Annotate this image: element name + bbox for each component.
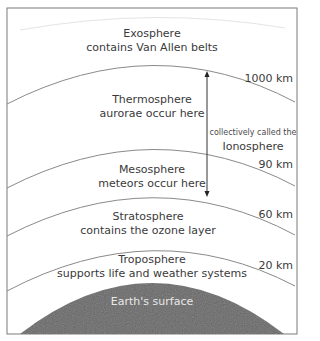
- ionosphere-name: Ionosphere: [222, 140, 283, 153]
- layer-name: Mesosphere: [98, 163, 206, 177]
- altitude-1000km: 1000 km: [244, 72, 293, 85]
- layer-exosphere: Exosphere contains Van Allen belts: [86, 27, 218, 55]
- layer-name: Stratosphere: [80, 210, 216, 224]
- layer-description: aurorae occur here: [100, 107, 205, 121]
- layer-description: meteors occur here: [98, 177, 206, 191]
- ionosphere-caption: collectively called the: [210, 128, 297, 137]
- layer-thermosphere: Thermosphere aurorae occur here: [100, 93, 205, 121]
- layer-stratosphere: Stratosphere contains the ozone layer: [80, 210, 216, 238]
- layer-name: Thermosphere: [100, 93, 205, 107]
- layer-description: contains Van Allen belts: [86, 41, 218, 55]
- altitude-20km: 20 km: [258, 259, 293, 272]
- earth-shape: [20, 283, 284, 334]
- layer-name: Exosphere: [86, 27, 218, 41]
- altitude-90km: 90 km: [258, 158, 293, 171]
- altitude-60km: 60 km: [258, 208, 293, 221]
- earth-surface-label: Earth's surface: [111, 295, 193, 308]
- arrow-down-icon: [205, 191, 210, 197]
- layer-troposphere: Troposphere supports life and weather sy…: [57, 253, 247, 281]
- arrow-up-icon: [205, 71, 210, 77]
- layer-description: supports life and weather systems: [57, 267, 247, 281]
- layer-mesosphere: Mesosphere meteors occur here: [98, 163, 206, 191]
- layer-name: Troposphere: [57, 253, 247, 267]
- layer-description: contains the ozone layer: [80, 224, 216, 238]
